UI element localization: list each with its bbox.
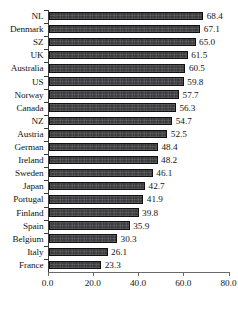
bar — [49, 38, 196, 46]
chart-row: Canada56.3 — [0, 102, 237, 114]
x-axis-tick — [93, 272, 94, 276]
category-label: Austria — [0, 128, 44, 140]
bar — [49, 117, 173, 125]
chart-row: Ireland48.2 — [0, 154, 237, 166]
bar-value-label: 61.5 — [191, 49, 207, 61]
y-axis-tick — [44, 180, 48, 181]
chart-row: Norway57.7 — [0, 89, 237, 101]
bar-chart: NL68.4Denmark67.1SZ65.0UK61.5Australia60… — [0, 0, 237, 309]
y-axis-tick — [44, 115, 48, 116]
y-axis-tick — [44, 36, 48, 37]
y-axis-tick — [44, 62, 48, 63]
bar-value-label: 68.4 — [207, 10, 223, 22]
category-label: UK — [0, 49, 44, 61]
chart-row: Australia60.5 — [0, 62, 237, 74]
chart-row: German48.4 — [0, 141, 237, 153]
y-axis-tick — [44, 207, 48, 208]
bar-value-label: 48.2 — [161, 154, 177, 166]
chart-row: Italy26.1 — [0, 246, 237, 258]
chart-row: Denmark67.1 — [0, 23, 237, 35]
chart-row: NL68.4 — [0, 10, 237, 22]
category-label: Finland — [0, 207, 44, 219]
bar — [49, 130, 168, 138]
bar — [49, 77, 184, 85]
chart-row: Belgium30.3 — [0, 233, 237, 245]
bar-value-label: 46.1 — [156, 167, 172, 179]
bar — [49, 12, 204, 20]
bar-value-label: 30.3 — [121, 233, 137, 245]
bar-value-label: 41.9 — [147, 193, 163, 205]
y-axis-tick — [44, 167, 48, 168]
bar — [49, 195, 144, 203]
category-label: France — [0, 259, 44, 271]
y-axis-tick — [44, 23, 48, 24]
bar — [49, 90, 180, 98]
bar — [49, 156, 158, 164]
chart-row: Japan42.7 — [0, 180, 237, 192]
bar-value-label: 65.0 — [199, 36, 215, 48]
category-label: Canada — [0, 102, 44, 114]
x-axis-tick — [183, 272, 184, 276]
category-label: Spain — [0, 220, 44, 232]
bar-value-label: 67.1 — [204, 23, 220, 35]
y-axis-tick — [44, 128, 48, 129]
category-label: Portugal — [0, 193, 44, 205]
y-axis-tick — [44, 49, 48, 50]
bar-value-label: 23.3 — [105, 259, 121, 271]
y-axis-tick — [44, 259, 48, 260]
bar-value-label: 57.7 — [183, 89, 199, 101]
x-axis-tick — [229, 272, 230, 276]
chart-row: Spain35.9 — [0, 220, 237, 232]
bar — [49, 51, 188, 59]
chart-row: UK61.5 — [0, 49, 237, 61]
chart-row: US59.8 — [0, 76, 237, 88]
category-label: NZ — [0, 115, 44, 127]
bar — [49, 234, 118, 242]
category-label: Sweden — [0, 167, 44, 179]
bar — [49, 103, 176, 111]
bar-value-label: 59.8 — [187, 76, 203, 88]
bar-value-label: 35.9 — [133, 220, 149, 232]
y-axis-tick — [44, 233, 48, 234]
category-label: Denmark — [0, 23, 44, 35]
category-label: Australia — [0, 62, 44, 74]
bar — [49, 169, 153, 177]
y-axis-tick — [44, 102, 48, 103]
y-axis-tick — [44, 76, 48, 77]
bar — [49, 182, 146, 190]
y-axis-tick — [44, 220, 48, 221]
bar-value-label: 42.7 — [149, 180, 165, 192]
x-axis-tick — [48, 272, 49, 276]
bar-value-label: 39.8 — [142, 207, 158, 219]
x-axis-tick-label: 60.0 — [163, 278, 203, 289]
y-axis-tick — [44, 89, 48, 90]
bar-value-label: 26.1 — [111, 246, 127, 258]
category-label: Norway — [0, 89, 44, 101]
y-axis-tick — [44, 154, 48, 155]
chart-row: France23.3 — [0, 259, 237, 271]
bar — [49, 208, 139, 216]
chart-row: Sweden46.1 — [0, 167, 237, 179]
bar-value-label: 54.7 — [176, 115, 192, 127]
category-label: US — [0, 76, 44, 88]
chart-row: Portugal41.9 — [0, 193, 237, 205]
bar — [49, 25, 201, 33]
x-axis-tick-label: 20.0 — [73, 278, 113, 289]
bar-value-label: 48.4 — [162, 141, 178, 153]
x-axis-tick-label: 0.0 — [28, 278, 68, 289]
chart-row: SZ65.0 — [0, 36, 237, 48]
y-axis-tick — [44, 10, 48, 11]
bar — [49, 261, 102, 269]
bar — [49, 221, 130, 229]
x-axis-tick-label: 40.0 — [118, 278, 158, 289]
bar — [49, 64, 186, 72]
bar — [49, 143, 159, 151]
chart-row: Austria52.5 — [0, 128, 237, 140]
category-label: German — [0, 141, 44, 153]
category-label: Ireland — [0, 154, 44, 166]
bar-value-label: 52.5 — [171, 128, 187, 140]
y-axis-tick — [44, 246, 48, 247]
chart-row: NZ54.7 — [0, 115, 237, 127]
bar-value-label: 60.5 — [189, 62, 205, 74]
x-axis-tick-label: 80.0 — [209, 278, 238, 289]
